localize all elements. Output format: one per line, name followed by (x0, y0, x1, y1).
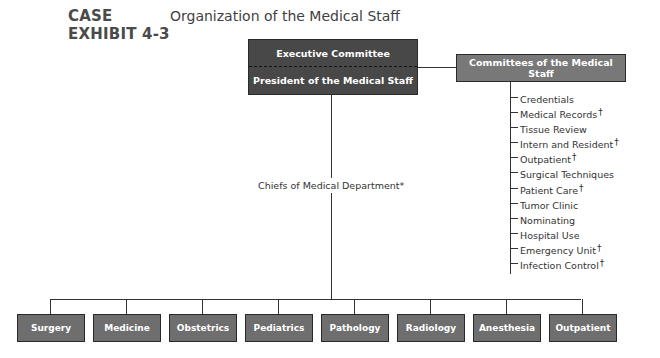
department-connector (126, 299, 127, 314)
connector-exec-to-committees (418, 67, 456, 68)
chiefs-label: Chiefs of Medical Department* (258, 178, 404, 193)
committee-label: Surgical Techniques (520, 169, 614, 180)
tick-mark (510, 203, 518, 204)
tick-mark (510, 127, 518, 128)
committee-label: Tumor Clinic (520, 200, 578, 211)
executive-president-box: Executive Committee President of the Med… (248, 39, 418, 95)
committee-item: Tumor Clinic (520, 196, 619, 211)
committee-label: Medical Records (520, 109, 597, 120)
committee-item: Emergency Unit† (520, 241, 619, 256)
department-box: Pathology (321, 314, 389, 342)
executive-committee-label: Executive Committee (249, 40, 417, 67)
tick-mark (510, 172, 518, 173)
committee-item: Infection Control† (520, 256, 619, 271)
dagger-mark: † (572, 152, 577, 162)
committee-item: Patient Care† (520, 181, 619, 196)
department-box: Surgery (17, 314, 85, 342)
department-box: Obstetrics (169, 314, 237, 342)
committee-item: Nominating (520, 211, 619, 226)
dagger-mark: † (600, 258, 605, 268)
dagger-mark: † (598, 107, 603, 117)
connector-departments-bus (50, 299, 581, 300)
department-connector (202, 299, 203, 314)
department-box: Radiology (397, 314, 465, 342)
tick-mark (510, 97, 518, 98)
department-box: Anesthesia (473, 314, 541, 342)
department-connector (278, 299, 279, 314)
tick-mark (510, 248, 518, 249)
committee-item: Intern and Resident† (520, 135, 619, 150)
tick-mark (510, 218, 518, 219)
committee-list: CredentialsMedical Records†Tissue Review… (520, 90, 619, 271)
tick-mark (510, 112, 518, 113)
president-label: President of the Medical Staff (249, 67, 417, 94)
department-connector (506, 299, 507, 314)
exhibit-label: CASE EXHIBIT 4-3 (68, 7, 170, 43)
department-box: Pediatrics (245, 314, 313, 342)
committee-label: Intern and Resident (520, 139, 613, 150)
department-box: Medicine (93, 314, 161, 342)
exhibit-label-line2: EXHIBIT 4-3 (68, 25, 170, 43)
committee-label: Credentials (520, 94, 574, 105)
connector-committees-spine (510, 82, 511, 274)
committee-item: Hospital Use (520, 226, 619, 241)
tick-mark (510, 188, 518, 189)
dagger-mark: † (597, 243, 602, 253)
tick-mark (510, 263, 518, 264)
committee-label: Outpatient (520, 154, 571, 165)
dashed-divider (249, 66, 417, 67)
committee-item: Surgical Techniques (520, 165, 619, 180)
committee-label: Emergency Unit (520, 245, 596, 256)
tick-mark (510, 233, 518, 234)
department-connector (430, 299, 431, 314)
department-connector (50, 299, 51, 314)
committee-label: Hospital Use (520, 230, 580, 241)
committee-item: Credentials (520, 90, 619, 105)
department-connector (582, 299, 583, 314)
diagram-title: Organization of the Medical Staff (170, 7, 400, 25)
committee-item: Medical Records† (520, 105, 619, 120)
exhibit-label-line1: CASE (68, 7, 170, 25)
committees-box: Committees of the Medical Staff (456, 54, 626, 82)
tick-mark (510, 157, 518, 158)
committee-item: Tissue Review (520, 120, 619, 135)
committee-label: Patient Care (520, 185, 578, 196)
tick-mark (510, 142, 518, 143)
committee-label: Infection Control (520, 260, 599, 271)
committee-label: Nominating (520, 215, 575, 226)
dagger-mark: † (614, 137, 619, 147)
committee-item: Outpatient† (520, 150, 619, 165)
department-connector (354, 299, 355, 314)
connector-exec-to-departments (331, 95, 332, 299)
committee-label: Tissue Review (520, 124, 587, 135)
department-box: Outpatient (549, 314, 617, 342)
dagger-mark: † (579, 183, 584, 193)
